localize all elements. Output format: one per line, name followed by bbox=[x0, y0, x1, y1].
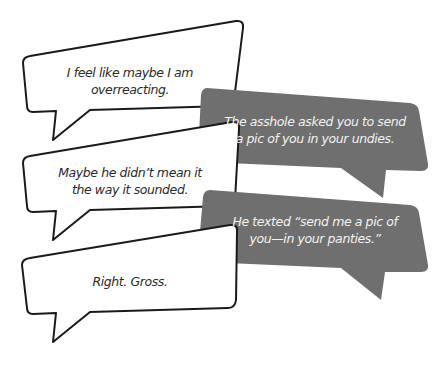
speech-bubble-5-text: Right. Gross. bbox=[40, 273, 220, 290]
bubble-3-line-1: Maybe he didn’t mean it bbox=[40, 164, 220, 181]
bubble-1-line-1: I feel like maybe I am bbox=[40, 64, 220, 81]
speech-bubble-illustration: I feel like maybe I am overreacting. The… bbox=[0, 0, 447, 365]
speech-bubble-4-text: He texted “send me a pic of you—in your … bbox=[215, 213, 415, 247]
bubble-4-line-1: He texted “send me a pic of bbox=[215, 213, 415, 230]
speech-bubble-3-text: Maybe he didn’t mean it the way it sound… bbox=[40, 164, 220, 198]
bubble-3-line-2: the way it sounded. bbox=[40, 181, 220, 198]
bubble-5-line-1: Right. Gross. bbox=[40, 273, 220, 290]
bubble-4-line-2: you—in your panties.” bbox=[215, 230, 415, 247]
bubble-2-line-2: a pic of you in your undies. bbox=[215, 130, 415, 147]
bubble-1-line-2: overreacting. bbox=[40, 81, 220, 98]
bubble-2-line-1: The asshole asked you to send bbox=[215, 113, 415, 130]
speech-bubble-1-text: I feel like maybe I am overreacting. bbox=[40, 64, 220, 98]
speech-bubble-2-text: The asshole asked you to send a pic of y… bbox=[215, 113, 415, 147]
